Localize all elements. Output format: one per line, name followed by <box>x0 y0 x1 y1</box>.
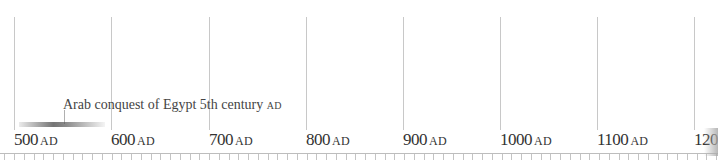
century-gridline-1100 <box>597 17 598 130</box>
tick-mark <box>355 154 356 160</box>
tick-mark <box>82 154 83 160</box>
tick-mark <box>92 154 93 160</box>
timeline: Arab conquest of Egypt 5th century AD 50… <box>0 0 718 163</box>
tick-mark <box>375 154 376 160</box>
century-gridline-800 <box>306 17 307 130</box>
century-gridline-1200 <box>694 17 695 130</box>
tick-mark <box>336 154 337 160</box>
tick-mark <box>14 154 15 160</box>
tick-mark <box>365 154 366 160</box>
tick-mark <box>424 154 425 160</box>
tick-mark <box>589 154 590 160</box>
tick-mark <box>463 154 464 160</box>
tick-mark <box>297 154 298 160</box>
tick-mark <box>316 154 317 160</box>
tick-mark <box>472 154 473 160</box>
tick-mark <box>394 154 395 160</box>
tick-mark <box>102 154 103 160</box>
tick-mark <box>511 154 512 160</box>
event-era: AD <box>267 100 282 111</box>
tick-mark <box>277 154 278 160</box>
timeline-axis[interactable] <box>0 153 718 154</box>
year-label-600: 600AD <box>111 131 155 150</box>
tick-mark <box>268 154 269 160</box>
century-gridline-1000 <box>500 17 501 130</box>
tick-mark <box>219 154 220 160</box>
tick-mark <box>346 154 347 160</box>
tick-mark <box>521 154 522 160</box>
tick-mark <box>141 154 142 160</box>
tick-mark <box>638 154 639 160</box>
tick-mark <box>404 154 405 160</box>
event-title: Arab conquest of Egypt 5th century <box>63 97 263 112</box>
tick-mark <box>287 154 288 160</box>
year-label-700: 700AD <box>209 131 253 150</box>
tick-mark <box>34 154 35 160</box>
tick-mark <box>687 154 688 160</box>
tick-mark <box>570 154 571 160</box>
tick-mark <box>414 154 415 160</box>
tick-mark <box>112 154 113 160</box>
tick-mark <box>73 154 74 160</box>
tick-mark <box>238 154 239 160</box>
tick-mark <box>385 154 386 160</box>
tick-mark <box>628 154 629 160</box>
tick-mark <box>502 154 503 160</box>
tick-mark <box>151 154 152 160</box>
century-gridline-500 <box>14 17 15 130</box>
tick-mark <box>326 154 327 160</box>
tick-mark <box>180 154 181 160</box>
year-label-900: 900AD <box>403 131 447 150</box>
tick-mark <box>453 154 454 160</box>
year-label-500: 500AD <box>14 131 58 150</box>
tick-mark <box>648 154 649 160</box>
tick-mark <box>63 154 64 160</box>
tick-mark <box>190 154 191 160</box>
tick-mark <box>258 154 259 160</box>
scroll-right-fade[interactable] <box>704 128 718 156</box>
tick-mark <box>560 154 561 160</box>
century-gridline-900 <box>403 17 404 130</box>
year-label-1100: 1100AD <box>597 131 648 150</box>
tick-mark <box>492 154 493 160</box>
tick-mark <box>4 154 5 160</box>
tick-mark <box>121 154 122 160</box>
tick-mark <box>433 154 434 160</box>
event-label[interactable]: Arab conquest of Egypt 5th century AD <box>63 97 282 114</box>
year-label-1000: 1000AD <box>500 131 552 150</box>
year-label-800: 800AD <box>306 131 350 150</box>
tick-mark <box>248 154 249 160</box>
tick-mark <box>599 154 600 160</box>
tick-mark <box>170 154 171 160</box>
tick-mark <box>580 154 581 160</box>
tick-mark <box>53 154 54 160</box>
tick-mark <box>677 154 678 160</box>
tick-mark <box>307 154 308 160</box>
tick-mark <box>531 154 532 160</box>
tick-mark <box>131 154 132 160</box>
tick-mark <box>697 154 698 160</box>
tick-mark <box>209 154 210 160</box>
tick-mark <box>667 154 668 160</box>
event-range-bar[interactable] <box>19 122 105 127</box>
tick-mark <box>541 154 542 160</box>
tick-mark <box>609 154 610 160</box>
tick-mark <box>199 154 200 160</box>
tick-mark <box>658 154 659 160</box>
tick-mark <box>550 154 551 160</box>
tick-mark <box>43 154 44 160</box>
tick-mark <box>160 154 161 160</box>
tick-mark <box>482 154 483 160</box>
tick-mark <box>619 154 620 160</box>
tick-mark <box>443 154 444 160</box>
tick-mark <box>229 154 230 160</box>
tick-mark <box>24 154 25 160</box>
